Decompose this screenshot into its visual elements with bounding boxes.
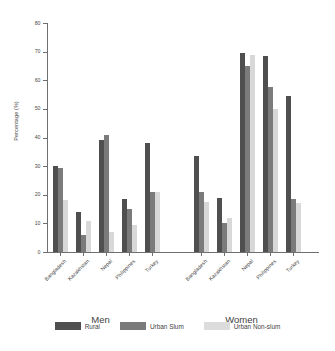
plot-area: 01020304050607080 — [47, 23, 319, 252]
legend-swatch-rural-icon — [55, 322, 81, 330]
bar-women-turkey-urban-non-slum — [296, 203, 301, 252]
bar-women-philippines-urban-non-slum — [273, 109, 278, 252]
y-axis-tick: 30 — [43, 166, 48, 167]
y-axis-tick-label: 80 — [35, 20, 41, 26]
x-axis-tick — [60, 252, 61, 256]
bar-women-bangladesh-urban-non-slum — [204, 202, 209, 252]
y-axis-tick-label: 30 — [35, 163, 41, 169]
legend-item-rural: Rural — [55, 322, 100, 330]
y-axis-tick: 10 — [43, 223, 48, 224]
bar-men-nepal-urban-non-slum — [109, 232, 114, 252]
bar-men-kazakhstan-urban-non-slum — [86, 221, 91, 252]
x-axis-tick — [224, 252, 225, 256]
y-axis-tick-label: 70 — [35, 48, 41, 54]
bar-men-philippines-urban-non-slum — [132, 225, 137, 252]
y-axis-tick: 40 — [43, 138, 48, 139]
bar-women-nepal-rural — [240, 53, 245, 252]
bar-men-philippines-urban-slum — [127, 209, 132, 252]
legend-label-rural: Rural — [85, 323, 100, 330]
x-axis-line — [47, 252, 319, 253]
legend-swatch-urban-non-slum-icon — [204, 322, 230, 330]
y-axis-tick-label: 40 — [35, 134, 41, 140]
legend-label-urban-non-slum: Urban Non-slum — [234, 323, 281, 330]
x-axis-tick — [201, 252, 202, 256]
y-axis-tick-label: 0 — [38, 249, 41, 255]
bar-men-turkey-urban-slum — [150, 192, 155, 252]
bar-women-bangladesh-urban-slum — [199, 192, 204, 252]
bar-women-kazakhstan-urban-slum — [222, 223, 227, 252]
bar-women-philippines-urban-slum — [268, 87, 273, 252]
bar-women-bangladesh-rural — [194, 156, 199, 252]
y-axis-tick: 70 — [43, 52, 48, 53]
y-axis-tick: 0 — [43, 252, 48, 253]
bar-women-kazakhstan-rural — [217, 198, 222, 252]
bar-women-turkey-urban-slum — [291, 199, 296, 252]
y-axis-title: Percentage (%) — [13, 76, 19, 166]
y-axis-tick-label: 50 — [35, 105, 41, 111]
y-axis-tick-label: 10 — [35, 220, 41, 226]
x-axis-tick — [152, 252, 153, 256]
bar-men-kazakhstan-urban-slum — [81, 235, 86, 252]
x-axis-tick — [247, 252, 248, 256]
y-axis-tick-label: 20 — [35, 191, 41, 197]
bar-men-bangladesh-urban-slum — [58, 168, 63, 252]
bar-women-nepal-urban-non-slum — [250, 55, 255, 253]
legend-item-urban-non-slum: Urban Non-slum — [204, 322, 281, 330]
bar-men-turkey-rural — [145, 143, 150, 252]
bar-men-turkey-urban-non-slum — [155, 192, 160, 252]
bar-chart: Percentage (%) 01020304050607080 Banglad… — [0, 0, 335, 351]
y-axis-tick: 50 — [43, 109, 48, 110]
x-axis-tick — [270, 252, 271, 256]
x-axis-tick — [129, 252, 130, 256]
y-axis-tick: 80 — [43, 23, 48, 24]
bar-men-kazakhstan-rural — [76, 212, 81, 252]
x-axis-tick — [106, 252, 107, 256]
chart-legend: Rural Urban Slum Urban Non-slum — [0, 322, 335, 330]
legend-label-urban-slum: Urban Slum — [150, 323, 184, 330]
y-axis-tick-label: 60 — [35, 77, 41, 83]
bar-women-nepal-urban-slum — [245, 66, 250, 252]
x-axis-tick — [293, 252, 294, 256]
y-axis-tick: 20 — [43, 195, 48, 196]
bar-men-bangladesh-urban-non-slum — [63, 200, 68, 252]
bar-men-philippines-rural — [122, 199, 127, 252]
bar-men-nepal-rural — [99, 140, 104, 252]
bar-women-kazakhstan-urban-non-slum — [227, 218, 232, 252]
legend-item-urban-slum: Urban Slum — [120, 322, 184, 330]
bar-women-philippines-rural — [263, 56, 268, 252]
x-axis-tick — [83, 252, 84, 256]
bar-men-bangladesh-rural — [53, 166, 58, 252]
y-axis-tick: 60 — [43, 80, 48, 81]
bar-women-turkey-rural — [286, 96, 291, 252]
legend-swatch-urban-slum-icon — [120, 322, 146, 330]
bar-men-nepal-urban-slum — [104, 135, 109, 252]
